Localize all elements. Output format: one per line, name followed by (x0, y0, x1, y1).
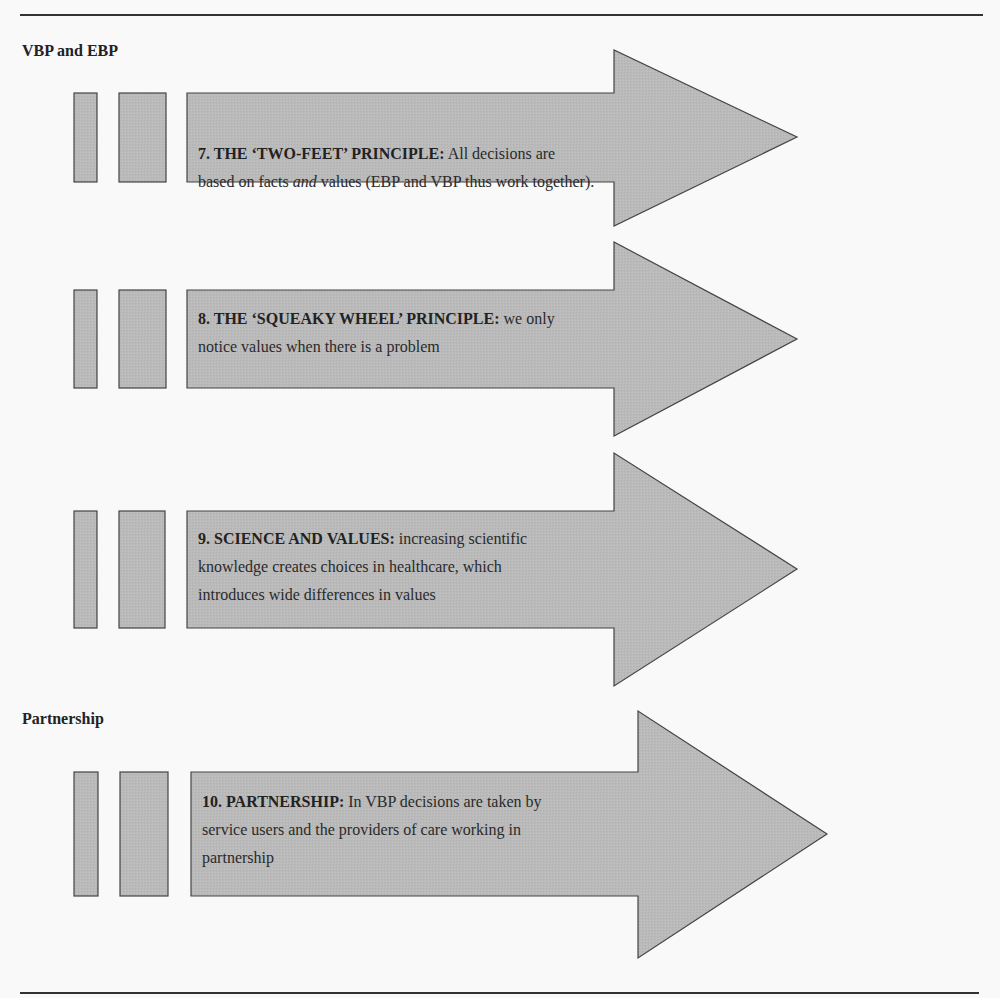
principle-8-line-1: 8. THE ‘SQUEAKY WHEEL’ PRINCIPLE: we onl… (198, 305, 555, 333)
arrow-8-bar-2 (119, 290, 166, 388)
principle-10-title: 10. PARTNERSHIP: (202, 793, 344, 810)
arrow-9-bar-2 (119, 511, 165, 628)
principle-10-line-2: service users and the providers of care … (202, 816, 542, 844)
principle-10-line-1: 10. PARTNERSHIP: In VBP decisions are ta… (202, 788, 542, 816)
principle-7-title: 7. THE ‘TWO-FEET’ PRINCIPLE: (198, 145, 445, 162)
arrow-7-bar-1 (74, 93, 97, 182)
principle-8-line-2: notice values when there is a problem (198, 333, 555, 361)
arrow-8-bar-1 (74, 290, 97, 388)
principle-7-line-1: 7. THE ‘TWO-FEET’ PRINCIPLE: All decisio… (198, 140, 594, 168)
arrow-7 (74, 50, 797, 226)
principle-9-text: 9. SCIENCE AND VALUES: increasing scient… (198, 525, 527, 609)
principle-7-text: 7. THE ‘TWO-FEET’ PRINCIPLE: All decisio… (198, 140, 594, 196)
principle-8-title: 8. THE ‘SQUEAKY WHEEL’ PRINCIPLE: (198, 310, 500, 327)
arrow-10-bar-1 (74, 772, 98, 896)
principle-8-text: 8. THE ‘SQUEAKY WHEEL’ PRINCIPLE: we onl… (198, 305, 555, 361)
principle-7-line-2: based on facts and values (EBP and VBP t… (198, 168, 594, 196)
principle-10-text: 10. PARTNERSHIP: In VBP decisions are ta… (202, 788, 542, 872)
arrow-10-bar-2 (120, 772, 168, 896)
arrow-7-bar-2 (119, 93, 166, 182)
emphasis-and: and (293, 173, 317, 190)
principle-9-line-2: knowledge creates choices in healthcare,… (198, 553, 527, 581)
principle-9-title: 9. SCIENCE AND VALUES: (198, 530, 395, 547)
bottom-rule (20, 992, 979, 994)
principle-9-line-1: 9. SCIENCE AND VALUES: increasing scient… (198, 525, 527, 553)
arrow-7-body (187, 50, 797, 226)
principle-9-line-3: introduces wide differences in values (198, 581, 527, 609)
arrow-9-bar-1 (74, 511, 97, 628)
principle-10-line-3: partnership (202, 844, 542, 872)
